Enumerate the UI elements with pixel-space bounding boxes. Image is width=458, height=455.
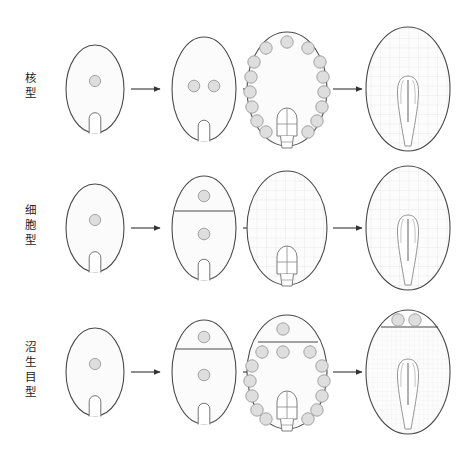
embryo-bulb-small <box>198 403 210 424</box>
row-label-char: 胞 <box>25 218 37 232</box>
embryo-bulb-small <box>89 113 101 134</box>
nucleus <box>251 115 263 127</box>
nucleus <box>311 115 323 127</box>
nucleus <box>316 360 328 372</box>
embryo-bulb-small <box>198 259 210 280</box>
row-label-char: 核 <box>25 71 37 85</box>
row-label-helobial-type: 沼 生 目 型 <box>25 340 36 399</box>
nucleus <box>188 80 200 92</box>
nucleus <box>248 56 260 68</box>
row-label-char: 型 <box>25 86 36 100</box>
nucleus <box>246 360 258 372</box>
stage-cell-r3c4 <box>366 310 450 435</box>
row-label-char: 生 <box>25 355 36 369</box>
stage-cell-r1c4 <box>366 27 450 151</box>
nucleus <box>318 86 330 98</box>
stage-cell-r3c1 <box>66 328 124 417</box>
embryo-bulb-small <box>89 252 101 273</box>
nucleus <box>409 314 421 326</box>
row-label-cellular-type: 细 胞 型 <box>25 203 37 247</box>
row-label-char: 目 <box>25 370 36 384</box>
endosperm-development-diagram: 核 型 <box>0 0 458 455</box>
nucleus <box>256 346 268 358</box>
stage-cell-r2c1 <box>66 184 124 273</box>
nucleus <box>208 80 220 92</box>
row-label-char: 细 <box>25 203 36 217</box>
nucleus <box>260 413 272 425</box>
nucleus <box>281 36 293 48</box>
stage-cell-r2c4 <box>366 166 450 290</box>
stage-cell-r3c2 <box>172 320 236 425</box>
nucleus <box>246 101 258 113</box>
nucleus <box>392 314 404 326</box>
nucleus <box>318 375 330 387</box>
nucleus <box>302 126 314 138</box>
figure-root: 核 型 <box>0 0 458 455</box>
embryo-bulb-small <box>89 396 101 417</box>
stage-cell-r2c2 <box>172 176 236 281</box>
nucleus <box>304 346 316 358</box>
nucleus <box>89 214 100 225</box>
nucleus <box>316 101 328 113</box>
stage-cell-r1c2 <box>172 37 236 142</box>
nucleus <box>198 369 210 381</box>
nucleus <box>89 358 100 369</box>
nucleus <box>317 71 329 83</box>
row-label-nuclear-type: 核 型 <box>25 71 37 100</box>
nucleus <box>316 390 328 402</box>
row-label-char: 沼 <box>25 340 36 354</box>
nucleus <box>89 75 100 86</box>
nucleus <box>198 331 210 343</box>
nucleus <box>244 86 256 98</box>
nucleus <box>277 346 289 358</box>
stage-cell-r1c1 <box>66 45 124 134</box>
nucleus <box>198 190 210 202</box>
nucleus <box>314 56 326 68</box>
nucleus <box>244 375 256 387</box>
nucleus <box>260 42 272 54</box>
row-label-char: 型 <box>25 385 36 399</box>
row-label-char: 型 <box>25 233 36 247</box>
nucleus <box>246 390 258 402</box>
embryo-bulb-small <box>198 120 210 141</box>
nucleus <box>302 413 314 425</box>
nucleus <box>302 42 314 54</box>
nucleus <box>245 71 257 83</box>
nucleus <box>260 126 272 138</box>
nucleus <box>277 323 289 335</box>
nucleus <box>198 228 210 240</box>
